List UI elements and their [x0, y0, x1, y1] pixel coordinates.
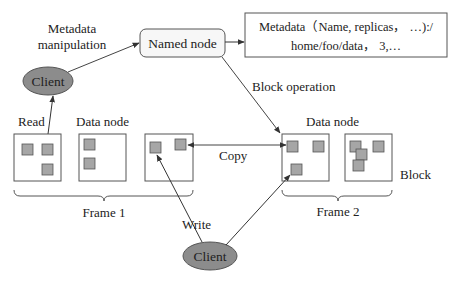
- block: [313, 141, 324, 152]
- write-label: Write: [182, 217, 211, 232]
- client-top: Client: [23, 67, 73, 95]
- write-arrow-frame2: [226, 175, 290, 245]
- client-bottom: Client: [183, 242, 237, 270]
- block: [175, 139, 186, 150]
- data-node-1: [14, 134, 61, 181]
- block: [22, 144, 33, 155]
- named-node: Named node: [140, 29, 225, 57]
- block-operation-arrow: [222, 57, 280, 133]
- data-node-5: [345, 134, 392, 181]
- named-node-label: Named node: [148, 36, 217, 51]
- metadata-text-line2: home/foo/data， 3,…: [291, 39, 401, 53]
- block: [84, 158, 95, 169]
- metadata-manipulation-label-2: manipulation: [38, 37, 107, 52]
- block: [287, 141, 298, 152]
- block-label: Block: [400, 167, 432, 182]
- frame2-label: Frame 2: [317, 204, 360, 219]
- block: [84, 139, 95, 150]
- copy-label: Copy: [219, 148, 248, 163]
- block: [150, 142, 161, 153]
- client-bottom-label: Client: [194, 249, 227, 264]
- frame1-label: Frame 1: [83, 205, 126, 220]
- data-node-4: [282, 134, 329, 181]
- frame2-brace: [282, 190, 392, 201]
- read-arrow: [48, 96, 53, 134]
- block-operation-label: Block operation: [252, 79, 336, 94]
- metadata-manipulation-label: Metadata: [48, 21, 97, 36]
- metadata-box: Metadata（Name, replicas， …):/ home/foo/d…: [245, 13, 447, 57]
- data-node-2: [79, 134, 126, 181]
- block: [42, 144, 53, 155]
- data-node-label-frame1: Data node: [76, 114, 129, 129]
- data-node-label-frame2: Data node: [306, 114, 359, 129]
- client-top-label: Client: [32, 74, 65, 89]
- block: [356, 149, 367, 160]
- block: [291, 164, 302, 175]
- block: [353, 160, 364, 171]
- hdfs-architecture-diagram: Metadata manipulation Named node Metadat…: [0, 0, 453, 284]
- block: [373, 141, 384, 152]
- frame1-brace: [14, 190, 193, 201]
- block: [42, 164, 53, 175]
- data-node-3: [145, 134, 193, 181]
- metadata-text-line1: Metadata（Name, replicas， …):/: [259, 20, 434, 34]
- read-label: Read: [18, 114, 45, 129]
